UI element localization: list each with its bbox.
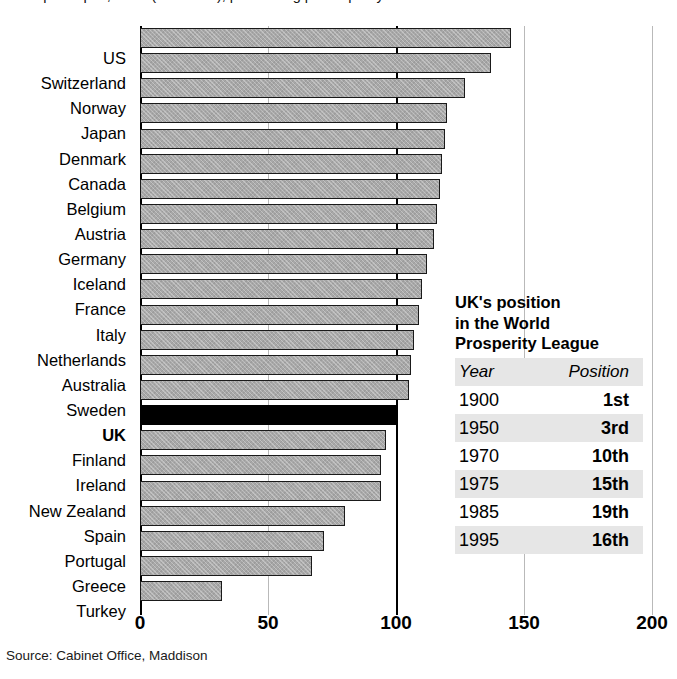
bar-row — [140, 51, 652, 76]
category-label-ireland: Ireland — [0, 473, 133, 498]
chart-title: GDP per capita, 1995 (UK = 100), purchas… — [8, 0, 668, 5]
bar-norway — [140, 78, 465, 98]
category-label-australia: Australia — [0, 373, 133, 398]
uk-position-table: Year Position 19001st19503rd197010th1975… — [455, 358, 643, 554]
category-label-greece: Greece — [0, 574, 133, 599]
category-label-iceland: Iceland — [0, 272, 133, 297]
inset-heading-line-2: in the World — [455, 313, 643, 334]
table-header-row: Year Position — [455, 358, 643, 386]
category-label-new-zealand: New Zealand — [0, 499, 133, 524]
bar-row — [140, 202, 652, 227]
table-row: 19503rd — [455, 414, 643, 442]
bar-row — [140, 554, 652, 579]
cell-position: 15th — [525, 470, 643, 498]
category-label-finland: Finland — [0, 448, 133, 473]
x-tick-50: 50 — [257, 612, 278, 634]
x-tick-0: 0 — [135, 612, 146, 634]
bar-germany — [140, 229, 434, 249]
column-header-year: Year — [455, 358, 525, 386]
table-row: 199516th — [455, 526, 643, 554]
bar-turkey — [140, 581, 222, 601]
bar-australia — [140, 355, 411, 375]
cell-year: 1950 — [455, 414, 525, 442]
category-label-switzerland: Switzerland — [0, 71, 133, 96]
bar-new-zealand — [140, 481, 381, 501]
bar-row — [140, 152, 652, 177]
bar-france — [140, 279, 422, 299]
inset-table-panel: UK's positionin the WorldProsperity Leag… — [455, 292, 643, 554]
bar-sweden — [140, 380, 409, 400]
bar-uk — [140, 405, 396, 425]
bar-iceland — [140, 254, 427, 274]
table-row: 197010th — [455, 442, 643, 470]
bar-row — [140, 26, 652, 51]
bar-row — [140, 177, 652, 202]
bar-row — [140, 252, 652, 277]
table-body: 19001st19503rd197010th197515th198519th19… — [455, 386, 643, 554]
column-header-position: Position — [525, 358, 643, 386]
bar-row — [140, 127, 652, 152]
category-label-italy: Italy — [0, 323, 133, 348]
category-label-norway: Norway — [0, 96, 133, 121]
bar-portugal — [140, 531, 324, 551]
category-label-denmark: Denmark — [0, 147, 133, 172]
category-label-germany: Germany — [0, 247, 133, 272]
cell-position: 10th — [525, 442, 643, 470]
inset-heading-line-3: Prosperity League — [455, 333, 643, 354]
table-row: 198519th — [455, 498, 643, 526]
category-label-netherlands: Netherlands — [0, 348, 133, 373]
bar-italy — [140, 305, 419, 325]
table-row: 19001st — [455, 386, 643, 414]
x-tick-200: 200 — [636, 612, 668, 634]
cell-year: 1975 — [455, 470, 525, 498]
bar-us — [140, 28, 511, 48]
cell-year: 1985 — [455, 498, 525, 526]
category-label-japan: Japan — [0, 121, 133, 146]
x-axis-labels: 050100150200 — [0, 612, 677, 642]
cell-position: 16th — [525, 526, 643, 554]
x-tick-150: 150 — [508, 612, 540, 634]
bar-denmark — [140, 129, 445, 149]
category-label-canada: Canada — [0, 172, 133, 197]
category-label-belgium: Belgium — [0, 197, 133, 222]
bar-ireland — [140, 455, 381, 475]
category-label-france: France — [0, 297, 133, 322]
bar-row — [140, 579, 652, 604]
x-tick-100: 100 — [380, 612, 412, 634]
cell-position: 1st — [525, 386, 643, 414]
cell-year: 1995 — [455, 526, 525, 554]
bar-netherlands — [140, 330, 414, 350]
category-label-sweden: Sweden — [0, 398, 133, 423]
category-label-uk: UK — [0, 423, 133, 448]
cell-position: 19th — [525, 498, 643, 526]
category-label-portugal: Portugal — [0, 549, 133, 574]
bar-belgium — [140, 179, 440, 199]
bar-spain — [140, 506, 345, 526]
table-row: 197515th — [455, 470, 643, 498]
cell-year: 1900 — [455, 386, 525, 414]
bar-switzerland — [140, 53, 491, 73]
bar-greece — [140, 556, 312, 576]
bar-row — [140, 76, 652, 101]
category-label-us: US — [0, 46, 133, 71]
inset-heading: UK's positionin the WorldProsperity Leag… — [455, 292, 643, 354]
gridline-200 — [652, 26, 653, 615]
source-note: Source: Cabinet Office, Maddison — [6, 648, 208, 663]
cell-year: 1970 — [455, 442, 525, 470]
bar-canada — [140, 154, 442, 174]
bar-row — [140, 101, 652, 126]
bar-finland — [140, 430, 386, 450]
category-axis-labels: USSwitzerlandNorwayJapanDenmarkCanadaBel… — [0, 46, 133, 619]
cell-position: 3rd — [525, 414, 643, 442]
bar-row — [140, 227, 652, 252]
category-label-spain: Spain — [0, 524, 133, 549]
bar-japan — [140, 103, 447, 123]
category-label-austria: Austria — [0, 222, 133, 247]
bar-austria — [140, 204, 437, 224]
inset-heading-line-1: UK's position — [455, 292, 643, 313]
